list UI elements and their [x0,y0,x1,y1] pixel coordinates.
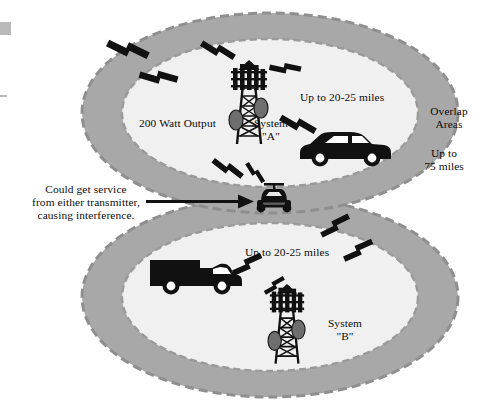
cell-b-coverage [82,197,458,397]
coverage-diagram-canvas: 200 Watt Output System "A" Up to 20-25 m… [0,0,493,408]
system-b-label: System "B" [317,317,373,343]
power-output-label: 200 Watt Output [139,117,216,130]
outer-distance-label: Up to 75 miles [413,147,475,173]
overlap-areas-label: Overlap Areas [418,105,480,131]
cell-b-distance-label: Up to 20-25 miles [245,246,329,259]
system-a-label: System "A" [243,117,299,143]
cell-a-distance-label: Up to 20-25 miles [300,91,384,104]
interference-callout-label: Could get service from either transmitte… [22,183,150,221]
